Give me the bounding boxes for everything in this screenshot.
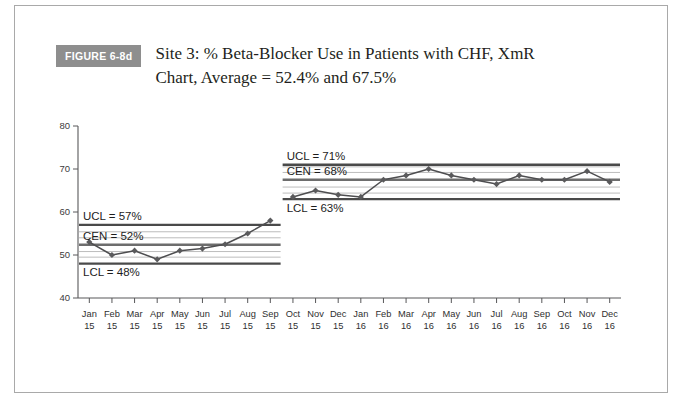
x-axis-tick-label-month: Feb — [375, 309, 391, 319]
x-axis-tick-label-year: 15 — [333, 321, 343, 331]
data-point-marker — [222, 241, 228, 247]
x-axis-tick-label-month: Feb — [104, 309, 120, 319]
x-axis-tick-label-year: 16 — [378, 321, 388, 331]
y-axis-tick-label: 50 — [59, 249, 70, 260]
x-axis-tick-label-year: 16 — [424, 321, 434, 331]
x-axis-tick-label-month: Jan — [353, 309, 368, 319]
control-limit-lines — [79, 165, 620, 264]
x-axis-tick-label-month: Aug — [239, 309, 256, 319]
lcl-label: LCL = 48% — [83, 266, 140, 278]
x-axis-tick-label-month: Sep — [262, 309, 279, 319]
data-point-marker — [199, 245, 205, 251]
control-limit-labels: UCL = 57%CEN = 52%LCL = 48%UCL = 71%CEN … — [83, 150, 347, 278]
data-point-marker — [335, 192, 341, 198]
data-point-marker — [584, 168, 590, 174]
figure-header: FIGURE 6-8d Site 3: % Beta-Blocker Use i… — [56, 42, 636, 90]
series-polyline — [293, 169, 610, 197]
x-axis-tick-label-year: 15 — [175, 321, 185, 331]
x-axis-tick-label-month: Apr — [421, 309, 435, 319]
x-axis-tick-label-month: May — [443, 309, 461, 319]
data-point-marker — [154, 256, 160, 262]
data-point-marker — [109, 252, 115, 258]
x-axis-tick-label-month: Nov — [579, 309, 596, 319]
data-point-marker — [290, 194, 296, 200]
x-axis-tick-label-year: 15 — [310, 321, 320, 331]
data-point-marker — [358, 194, 364, 200]
x-axis-tick-label-year: 16 — [469, 321, 479, 331]
x-axis-tick-label-month: May — [171, 309, 189, 319]
x-axis-tick-label-year: 16 — [605, 321, 615, 331]
data-point-marker — [448, 172, 454, 178]
data-point-marker — [539, 177, 545, 183]
x-axis-tick-label-year: 15 — [243, 321, 253, 331]
figure-number-badge: FIGURE 6-8d — [56, 45, 141, 67]
x-axis-tick-label-year: 15 — [265, 321, 275, 331]
x-axis-tick-label-month: Oct — [286, 309, 301, 319]
x-axis-tick-label-year: 15 — [288, 321, 298, 331]
x-axis-tick-label-year: 16 — [356, 321, 366, 331]
x-axis-tick-label-year: 15 — [84, 321, 94, 331]
x-axis-tick-label-month: Oct — [557, 309, 572, 319]
ucl-label: UCL = 57% — [83, 210, 142, 222]
figure-title: Site 3: % Beta-Blocker Use in Patients w… — [155, 42, 636, 90]
center-label: CEN = 52% — [83, 230, 143, 242]
x-axis-tick-label-year: 16 — [537, 321, 547, 331]
x-axis-tick-label-month: Dec — [601, 309, 618, 319]
x-axis-tick-label-year: 16 — [582, 321, 592, 331]
x-axis-tick-label-month: Apr — [150, 309, 164, 319]
data-point-markers — [86, 166, 613, 263]
y-axis-tick-label: 60 — [59, 206, 70, 217]
x-axis-tick-label-month: Mar — [398, 309, 414, 319]
data-point-marker — [177, 248, 183, 254]
data-point-marker — [245, 230, 251, 236]
x-axis-tick-label-year: 15 — [197, 321, 207, 331]
data-point-marker — [131, 248, 137, 254]
data-point-marker — [312, 187, 318, 193]
data-point-marker — [516, 172, 522, 178]
data-point-marker — [607, 179, 613, 185]
x-axis-tick-label-year: 16 — [401, 321, 411, 331]
y-axis-tick-label: 80 — [59, 120, 70, 131]
data-point-marker — [471, 177, 477, 183]
x-axis-tick-label-year: 16 — [491, 321, 501, 331]
data-point-marker — [380, 177, 386, 183]
sigma-zone-lines — [79, 167, 620, 257]
data-point-marker — [426, 166, 432, 172]
data-point-marker — [267, 218, 273, 224]
chart-axes — [73, 126, 621, 303]
x-axis-tick-label-year: 16 — [446, 321, 456, 331]
figure-title-line-2: Chart, Average = 52.4% and 67.5% — [155, 66, 636, 90]
x-axis-tick-label-month: Jun — [466, 309, 481, 319]
data-point-marker — [403, 172, 409, 178]
lcl-label: LCL = 63% — [287, 202, 344, 214]
data-point-marker — [493, 181, 499, 187]
x-axis-tick-label-month: Jul — [491, 309, 503, 319]
y-axis-tick-label: 70 — [59, 163, 70, 174]
center-label: CEN = 68% — [287, 165, 347, 177]
ucl-label: UCL = 71% — [287, 150, 346, 162]
x-axis-tick-label-month: Dec — [330, 309, 347, 319]
x-axis-tick-label-month: Jan — [82, 309, 97, 319]
x-axis-tick-label-month: Nov — [307, 309, 324, 319]
data-point-marker — [561, 177, 567, 183]
x-axis-tick-label-year: 15 — [129, 321, 139, 331]
x-axis-tick-label-month: Jun — [195, 309, 210, 319]
x-axis-tick-label-month: Jul — [219, 309, 231, 319]
x-axis-tick-label-year: 16 — [514, 321, 524, 331]
x-axis-tick-label-month: Sep — [534, 309, 551, 319]
x-axis-tick-label-year: 16 — [559, 321, 569, 331]
figure-frame: FIGURE 6-8d Site 3: % Beta-Blocker Use i… — [14, 5, 668, 393]
series-polyline — [89, 221, 270, 260]
x-axis-tick-label-year: 15 — [152, 321, 162, 331]
x-axis-tick-labels: Jan15Feb15Mar15Apr15May15Jun15Jul15Aug15… — [82, 309, 618, 331]
x-axis-tick-label-year: 15 — [220, 321, 230, 331]
x-axis-tick-label-month: Mar — [127, 309, 143, 319]
figure-title-line-1: Site 3: % Beta-Blocker Use in Patients w… — [155, 42, 636, 66]
data-series-lines — [89, 169, 609, 259]
data-point-marker — [86, 239, 92, 245]
x-axis-tick-label-month: Aug — [511, 309, 528, 319]
x-axis-tick-label-year: 15 — [107, 321, 117, 331]
y-axis-tick-labels: 4050607080 — [59, 120, 70, 303]
y-axis-tick-label: 40 — [59, 292, 70, 303]
